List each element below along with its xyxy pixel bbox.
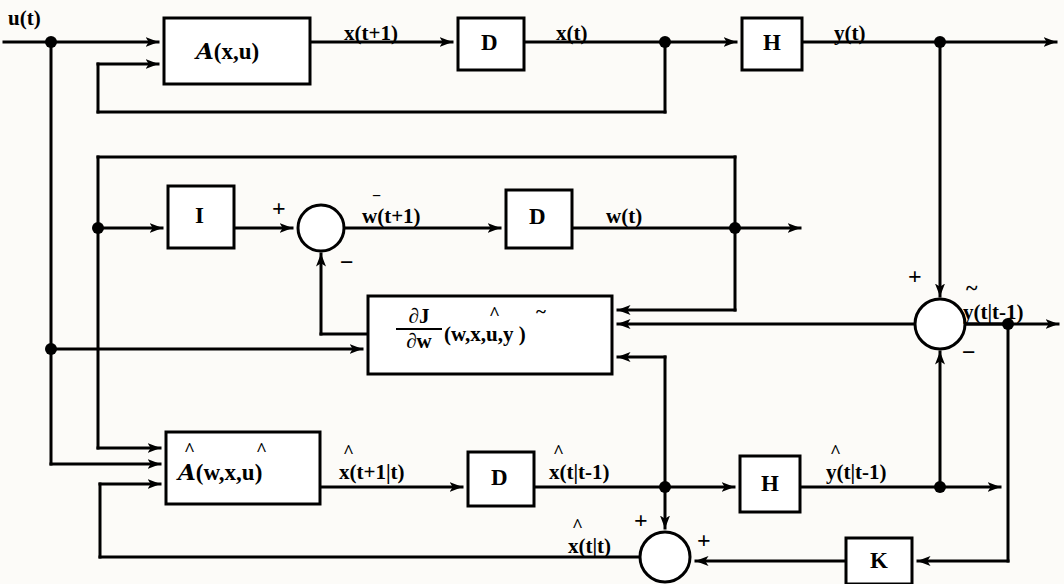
box-label-A-xu-args: (x,u) <box>214 39 259 64</box>
label-y-t: y(t) <box>834 23 865 44</box>
sum-w-update <box>298 205 344 251</box>
hat-accent-xhat-ttm1: ^ <box>553 442 564 461</box>
dot-yhat-tap <box>934 481 946 493</box>
gradient-arguments: (w,x,u,y ) <box>444 324 526 345</box>
dot-w-feedback-tap <box>92 222 104 234</box>
block-diagram-canvas: u(t) A(x,u) x(t+1) D x(t) H y(t) I + − −… <box>0 0 1064 584</box>
box-label-H-top: H <box>763 31 781 54</box>
hat-accent-x-Ahat: ^ <box>256 440 267 459</box>
sum-state-correction <box>640 532 690 582</box>
label-w-t: w(t) <box>606 206 642 227</box>
box-label-K: K <box>870 549 888 572</box>
tilde-accent-ytilde: ~ <box>966 277 977 299</box>
label-w-tp1: w(t+1) <box>362 206 421 227</box>
hat-accent-yhat: ^ <box>830 442 841 461</box>
label-x-t: x(t) <box>556 23 587 44</box>
box-label-D-mid: D <box>529 205 546 228</box>
sign-minus-w-sum: − <box>340 250 354 274</box>
box-label-D-bot: D <box>491 466 508 489</box>
script-A-glyph: A <box>196 37 214 64</box>
box-label-D-top: D <box>481 31 498 54</box>
dot-x-state-tap <box>659 36 671 48</box>
sign-plus-w-sum: + <box>272 196 286 220</box>
tilde-accent-y-grad: ~ <box>536 302 546 321</box>
label-x-tp1: x(t+1) <box>344 23 398 44</box>
label-u-t: u(t) <box>8 8 41 29</box>
box-label-A-hat: A(w,x,u) <box>178 460 262 484</box>
dot-xhat-tap <box>659 481 671 493</box>
sum-innovation <box>915 299 965 349</box>
gradient-fraction: ∂J ∂w <box>396 306 442 353</box>
gradient-denominator: ∂w <box>396 331 442 352</box>
accent-mark-w: − <box>372 188 381 204</box>
label-xhat-tp1t: x(t+1|t) <box>339 462 405 483</box>
label-ytilde-ttm1: y(t|t-1) <box>963 302 1024 323</box>
sign-minus-innovation: − <box>962 340 976 364</box>
hat-accent-x-grad: ^ <box>489 304 500 323</box>
box-label-H-bot: H <box>761 472 779 495</box>
dot-w-output-tap <box>729 222 741 234</box>
label-xhat-tt: x(t|t) <box>568 536 611 557</box>
sign-plus-corr-top: + <box>634 508 648 532</box>
box-label-I: I <box>195 204 204 227</box>
label-yhat-ttm1: y(t|t-1) <box>826 462 887 483</box>
script-A-hat-glyph: A <box>178 458 196 485</box>
dot-y-output-tap <box>934 36 946 48</box>
label-xhat-ttm1: x(t|t-1) <box>549 462 610 483</box>
box-label-A-hat-args: (w,x,u) <box>196 460 262 485</box>
dot-u-lower-tap <box>45 343 57 355</box>
hat-accent-xhat-tp1t: ^ <box>343 442 354 461</box>
gradient-numerator: ∂J <box>396 306 442 327</box>
box-label-A-xu: A(x,u) <box>196 39 259 63</box>
diagram-wires <box>0 0 1064 584</box>
hat-accent-A: ^ <box>184 440 195 459</box>
sign-plus-corr-right: + <box>697 528 711 552</box>
dot-u-tap <box>45 36 57 48</box>
hat-accent-xhat-tt: ^ <box>572 516 583 535</box>
sign-plus-innovation: + <box>908 264 922 288</box>
